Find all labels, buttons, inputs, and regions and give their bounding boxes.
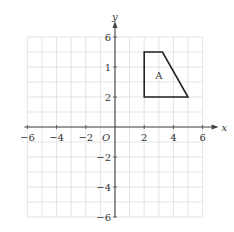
shape-a-label: A [154,70,163,81]
tick-labels: xyO−6−4−2246612−2−4−6 [20,11,228,223]
x-tick-label: 4 [170,132,176,143]
y-tick-label: 6 [105,32,111,43]
x-tick-label: −6 [20,132,35,143]
y-tick-label: −2 [96,152,111,163]
axes [24,21,218,217]
shape-a: A [144,52,188,97]
x-tick-label: −4 [49,132,64,143]
x-tick-label: −2 [78,132,93,143]
y-tick-label: −4 [96,182,111,193]
x-axis-arrow-icon [212,125,219,130]
shape-a-outline [144,52,188,97]
origin-label: O [102,132,110,143]
x-tick-label: 2 [141,132,147,143]
coordinate-grid: xyO−6−4−2246612−2−4−6 A [0,0,234,232]
x-tick-label: 6 [199,132,205,143]
x-axis-label: x [222,122,228,133]
y-tick-label: −6 [96,212,111,223]
y-tick-label: 1 [105,62,111,73]
y-tick-label: 2 [105,92,111,103]
y-axis-label: y [111,11,118,22]
y-axis-arrow-icon [113,21,118,28]
